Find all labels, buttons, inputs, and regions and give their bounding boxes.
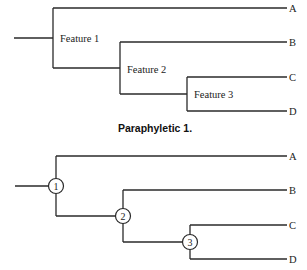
node-1-number: 1 <box>54 181 59 192</box>
bottom-cladogram: 1 2 3 A B C D <box>15 151 297 265</box>
leaf-c-label: C <box>289 220 296 231</box>
leaf-c-label: C <box>289 72 296 83</box>
feature-1-label: Feature 1 <box>60 33 99 44</box>
leaf-d-label: D <box>289 106 297 117</box>
leaf-d-label: D <box>289 254 297 265</box>
feature-3-label: Feature 3 <box>194 89 233 100</box>
leaf-b-label: B <box>289 185 296 196</box>
leaf-b-label: B <box>289 37 296 48</box>
leaf-a-label: A <box>289 3 297 14</box>
node-2-number: 2 <box>121 211 126 222</box>
figure-caption: Paraphyletic 1. <box>118 122 192 134</box>
feature-2-label: Feature 2 <box>127 64 166 75</box>
leaf-a-label: A <box>289 151 297 162</box>
cladogram-figure: Feature 1 Feature 2 Feature 3 A B C D Pa… <box>0 0 307 270</box>
node-3-number: 3 <box>188 237 193 248</box>
top-cladogram: Feature 1 Feature 2 Feature 3 A B C D Pa… <box>14 3 297 134</box>
